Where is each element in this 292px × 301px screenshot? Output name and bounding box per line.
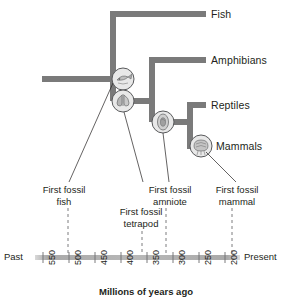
event-label-first-fossil-tetrapod: First fossil tetrapod: [120, 206, 163, 229]
event-line-1: First fossil: [120, 206, 163, 218]
axis-present-label: Present: [244, 251, 277, 262]
leader-mammal: [206, 152, 236, 182]
tick-label-200: 200: [229, 250, 239, 265]
tick-label-500: 500: [73, 250, 83, 265]
taxon-label-fish: Fish: [211, 8, 231, 20]
event-line-1: First fossil: [216, 184, 259, 196]
event-line-2: tetrapod: [120, 218, 163, 230]
event-line-1: First fossil: [43, 184, 86, 196]
event-label-first-fossil-mammal: First fossil mammal: [216, 184, 259, 207]
event-line-2: fish: [43, 196, 86, 208]
fish-fossil-icon: [112, 68, 134, 90]
tick-label-350: 350: [151, 250, 161, 265]
taxon-label-mammals: Mammals: [216, 140, 262, 152]
lungs-icon: [112, 90, 134, 112]
axis-past-label: Past: [4, 251, 23, 262]
event-label-first-fossil-amniote: First fossil amniote: [149, 184, 192, 207]
event-line-1: First fossil: [149, 184, 192, 196]
tick-label-400: 400: [125, 250, 135, 265]
tick-label-250: 250: [203, 250, 213, 265]
amniote-egg-icon: [152, 111, 174, 133]
tick-label-550: 550: [47, 250, 57, 265]
leader-tetrapod: [124, 112, 143, 182]
leader-amniote: [163, 133, 169, 182]
axis-title: Millions of years ago: [99, 286, 193, 297]
mammal-skull-icon: [190, 135, 212, 157]
phylogenetic-tree-figure: Fish Amphibians Reptiles Mammals First f…: [0, 0, 292, 301]
tick-label-450: 450: [99, 250, 109, 265]
event-line-2: amniote: [149, 196, 192, 208]
taxon-label-amphibians: Amphibians: [211, 54, 267, 66]
tick-label-300: 300: [177, 250, 187, 265]
leader-fish: [69, 83, 113, 182]
event-line-2: mammal: [216, 196, 259, 208]
taxon-label-reptiles: Reptiles: [211, 99, 250, 111]
event-label-first-fossil-fish: First fossil fish: [43, 184, 86, 207]
